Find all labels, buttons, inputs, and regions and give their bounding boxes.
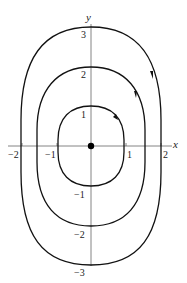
y-tick-label: 3 <box>81 29 86 40</box>
equilibrium-point <box>88 143 94 149</box>
phase-portrait: x y −2 −1 1 2 3 2 1 −1 −2 −3 <box>0 0 187 283</box>
y-tick-label: 1 <box>81 109 86 120</box>
arrow-middle-icon <box>134 91 137 98</box>
x-tick-label: 1 <box>127 149 132 160</box>
y-tick-label: 2 <box>81 69 86 80</box>
y-axis-label: y <box>85 11 91 23</box>
x-tick-label: −2 <box>8 149 19 160</box>
y-tick-label: −2 <box>74 229 85 240</box>
y-tick-label: −1 <box>74 189 85 200</box>
x-tick-label: 2 <box>163 149 168 160</box>
y-tick-label: −3 <box>74 267 85 278</box>
x-tick-label: −1 <box>45 149 56 160</box>
arrow-outer-icon <box>150 71 153 79</box>
x-axis-label: x <box>172 138 178 150</box>
